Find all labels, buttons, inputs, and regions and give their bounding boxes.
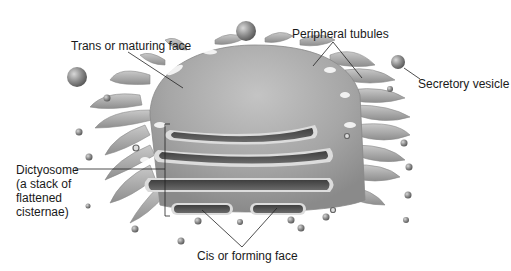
label-trans-face: Trans or maturing face: [71, 39, 191, 53]
cisterna-4a: [171, 203, 233, 215]
cisterna-4b: [250, 203, 306, 215]
vesicle-large: [236, 21, 256, 41]
golgi-diagram: Trans or maturing face Peripheral tubule…: [0, 0, 511, 271]
label-secretory-vesicle: Secretory vesicle: [418, 77, 509, 91]
cisterna-3: [145, 178, 334, 192]
label-dictyosome-2: (a stack of: [16, 177, 71, 191]
vesicle-large: [67, 67, 87, 87]
label-dictyosome-3: flattened: [16, 191, 62, 205]
label-dictyosome-1: Dictyosome: [16, 163, 79, 177]
label-dictyosome-4: cisternae): [16, 205, 69, 219]
label-cis-face: Cis or forming face: [197, 249, 298, 263]
secretory-vesicle: [391, 55, 405, 69]
label-peripheral-tubules: Peripheral tubules: [292, 27, 389, 41]
